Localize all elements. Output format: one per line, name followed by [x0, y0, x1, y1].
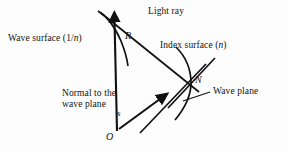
- diagram-canvas: [0, 0, 288, 152]
- optics-diagram: Wave surface (1/n) Light ray Index surfa…: [0, 0, 288, 152]
- label-index-surface-close: ): [223, 40, 226, 50]
- label-wave-plane: Wave plane: [213, 86, 258, 97]
- label-wave-surface: Wave surface (1/n): [8, 33, 82, 44]
- wave-plane-line: [168, 58, 215, 108]
- label-normal-line2: wave plane: [62, 99, 106, 109]
- label-wave-surface-close: ): [79, 33, 82, 43]
- label-index-surface-text: Index surface (: [160, 40, 218, 50]
- label-light-ray: Light ray: [148, 6, 184, 17]
- label-index-surface: Index surface (n): [160, 40, 227, 51]
- vector-label-s: s: [117, 108, 121, 118]
- wave-plane-leader-line: [183, 92, 210, 101]
- label-wave-surface-text: Wave surface (1/: [8, 33, 74, 43]
- point-label-N: N: [195, 74, 202, 85]
- label-normal-to-wave-plane: Normal to the wave plane: [62, 88, 128, 110]
- point-label-O: O: [106, 131, 113, 142]
- label-normal-line1: Normal to the: [62, 88, 116, 98]
- point-label-R: R: [125, 30, 131, 41]
- wave-surface-curve: [98, 11, 128, 66]
